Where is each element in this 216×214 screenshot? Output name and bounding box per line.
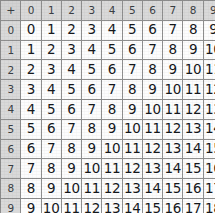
sum-cell: 11 [183, 80, 203, 100]
sum-cell: 7 [102, 80, 122, 100]
sum-cell: 14 [203, 119, 215, 139]
sum-cell: 15 [183, 159, 203, 179]
sum-cell: 10 [102, 139, 122, 159]
sum-cell: 12 [122, 159, 142, 179]
row-header-2: 2 [1, 60, 21, 80]
sum-cell: 11 [203, 60, 215, 80]
sum-cell: 15 [163, 179, 183, 199]
sum-cell: 8 [102, 99, 122, 119]
row-header-0: 0 [1, 20, 21, 40]
sum-cell: 13 [102, 198, 122, 213]
sum-cell: 10 [163, 80, 183, 100]
sum-cell: 6 [41, 119, 61, 139]
sum-cell: 9 [183, 40, 203, 60]
table-row: 3345678910111213 [1, 80, 216, 100]
row-header-3: 3 [1, 80, 21, 100]
sum-cell: 14 [163, 159, 183, 179]
sum-cell: 7 [82, 99, 102, 119]
row-header-9: 9 [1, 198, 21, 213]
sum-cell: 15 [203, 139, 215, 159]
sum-cell: 5 [122, 20, 142, 40]
row-header-7: 7 [1, 159, 21, 179]
sum-cell: 10 [41, 198, 61, 213]
sum-cell: 0 [21, 20, 41, 40]
sum-cell: 11 [82, 179, 102, 199]
sum-cell: 9 [163, 60, 183, 80]
table-row: 44567891011121314 [1, 99, 216, 119]
sum-cell: 7 [142, 40, 162, 60]
sum-cell: 9 [21, 198, 41, 213]
sum-cell: 8 [82, 119, 102, 139]
sum-cell: 11 [122, 139, 142, 159]
column-header-3: 3 [82, 1, 102, 21]
addition-table: + 012345678910 0012345678910112345678910… [0, 0, 215, 213]
column-header-1: 1 [41, 1, 61, 21]
sum-cell: 13 [142, 159, 162, 179]
sum-cell: 13 [203, 99, 215, 119]
sum-cell: 17 [203, 179, 215, 199]
sum-cell: 10 [203, 40, 215, 60]
sum-cell: 16 [183, 179, 203, 199]
sum-cell: 12 [203, 80, 215, 100]
table-row: 9910111213141516171819 [1, 198, 216, 213]
addition-table-container: + 012345678910 0012345678910112345678910… [0, 0, 213, 208]
column-header-0: 0 [21, 1, 41, 21]
sum-cell: 13 [183, 119, 203, 139]
sum-cell: 1 [21, 40, 41, 60]
sum-cell: 4 [21, 99, 41, 119]
row-header-4: 4 [1, 99, 21, 119]
sum-cell: 11 [61, 198, 81, 213]
sum-cell: 8 [122, 80, 142, 100]
sum-cell: 14 [142, 179, 162, 199]
sum-cell: 12 [183, 99, 203, 119]
table-row: 889101112131415161718 [1, 179, 216, 199]
addition-table-body: + 012345678910 0012345678910112345678910… [1, 1, 216, 214]
column-header-2: 2 [61, 1, 81, 21]
sum-cell: 10 [122, 119, 142, 139]
sum-cell: 8 [61, 139, 81, 159]
sum-cell: 9 [61, 159, 81, 179]
sum-cell: 11 [142, 119, 162, 139]
sum-cell: 16 [163, 198, 183, 213]
sum-cell: 8 [142, 60, 162, 80]
sum-cell: 5 [82, 60, 102, 80]
sum-cell: 2 [61, 20, 81, 40]
column-header-4: 4 [102, 1, 122, 21]
sum-cell: 16 [203, 159, 215, 179]
sum-cell: 13 [163, 139, 183, 159]
sum-cell: 5 [61, 80, 81, 100]
sum-cell: 4 [82, 40, 102, 60]
sum-cell: 7 [163, 20, 183, 40]
sum-cell: 12 [163, 119, 183, 139]
sum-cell: 12 [142, 139, 162, 159]
sum-cell: 3 [61, 40, 81, 60]
row-header-1: 1 [1, 40, 21, 60]
column-header-9: 9 [203, 1, 215, 21]
table-row: 77891011121314151617 [1, 159, 216, 179]
table-header-row: + 012345678910 [1, 1, 216, 21]
sum-cell: 6 [122, 40, 142, 60]
sum-cell: 9 [82, 139, 102, 159]
sum-cell: 5 [21, 119, 41, 139]
row-header-5: 5 [1, 119, 21, 139]
sum-cell: 9 [41, 179, 61, 199]
table-row: 6678910111213141516 [1, 139, 216, 159]
table-row: 223456789101112 [1, 60, 216, 80]
sum-cell: 4 [61, 60, 81, 80]
sum-cell: 12 [102, 179, 122, 199]
sum-cell: 5 [41, 99, 61, 119]
sum-cell: 18 [203, 198, 215, 213]
table-row: 11234567891011 [1, 40, 216, 60]
sum-cell: 14 [122, 198, 142, 213]
sum-cell: 10 [142, 99, 162, 119]
column-header-6: 6 [142, 1, 162, 21]
sum-cell: 9 [203, 20, 215, 40]
sum-cell: 9 [122, 99, 142, 119]
sum-cell: 10 [183, 60, 203, 80]
sum-cell: 6 [82, 80, 102, 100]
sum-cell: 7 [61, 119, 81, 139]
row-header-8: 8 [1, 179, 21, 199]
sum-cell: 6 [21, 139, 41, 159]
sum-cell: 7 [21, 159, 41, 179]
column-header-7: 7 [163, 1, 183, 21]
